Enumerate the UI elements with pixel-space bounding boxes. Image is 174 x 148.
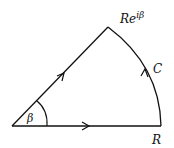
arc-label: C <box>153 62 162 76</box>
angle-arc <box>37 101 47 126</box>
arc-c <box>108 27 161 126</box>
sector-contour-diagram: Reiβ C R β <box>0 0 174 148</box>
apex-label: Reiβ <box>119 10 144 26</box>
angle-label: β <box>26 112 33 125</box>
endpoint-label: R <box>151 133 161 147</box>
